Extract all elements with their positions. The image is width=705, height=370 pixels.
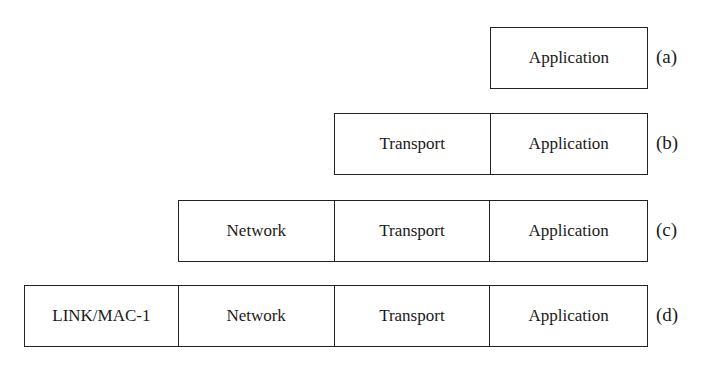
stack-row-a: Application [490, 27, 648, 89]
layer-link-mac: LINK/MAC-1 [25, 286, 179, 346]
row-label-b: (b) [656, 132, 678, 154]
layer-application: Application [491, 114, 648, 174]
stack-row-b: Transport Application [334, 113, 648, 175]
layer-application: Application [491, 28, 647, 88]
layer-transport: Transport [335, 201, 491, 261]
layer-transport: Transport [335, 286, 491, 346]
row-label-c: (c) [656, 219, 677, 241]
layer-network: Network [179, 286, 335, 346]
row-label-d: (d) [656, 304, 678, 326]
stack-row-c: Network Transport Application [178, 200, 648, 262]
stack-row-d: LINK/MAC-1 Network Transport Application [24, 285, 648, 347]
layer-application: Application [490, 201, 647, 261]
row-label-a: (a) [656, 46, 677, 68]
layer-transport: Transport [335, 114, 491, 174]
layer-network: Network [179, 201, 335, 261]
layer-application: Application [490, 286, 647, 346]
